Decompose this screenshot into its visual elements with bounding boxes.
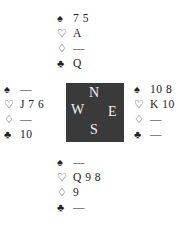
west-clubs-cards: 10: [20, 127, 33, 142]
east-hearts-cards: K 10: [150, 97, 175, 112]
spade-icon: ♠: [4, 82, 20, 97]
west-diamonds-row: ♢ —: [4, 112, 44, 127]
compass-north-label: N: [89, 85, 99, 101]
club-icon: ♣: [4, 127, 20, 142]
east-spades-row: ♠ 10 8: [134, 82, 175, 97]
south-hand: ♠ — ♡ Q 9 8 ♢ 9 ♣ —: [57, 155, 101, 215]
compass-table: N W E S: [66, 83, 124, 142]
west-diamonds-cards: —: [20, 112, 32, 127]
north-spades-row: ♠ 7 5: [57, 11, 89, 26]
south-diamonds-cards: 9: [73, 185, 79, 200]
north-hand: ♠ 7 5 ♡ A ♢ — ♣ Q: [57, 11, 89, 71]
club-icon: ♣: [57, 56, 73, 71]
diamond-icon: ♢: [134, 112, 150, 127]
north-hearts-cards: A: [73, 26, 82, 41]
east-diamonds-row: ♢ —: [134, 112, 175, 127]
west-clubs-row: ♣ 10: [4, 127, 44, 142]
north-diamonds-row: ♢ —: [57, 41, 89, 56]
west-spades-row: ♠ —: [4, 82, 44, 97]
compass-south-label: S: [90, 122, 98, 138]
north-clubs-cards: Q: [73, 56, 82, 71]
south-clubs-row: ♣ —: [57, 200, 101, 215]
spade-icon: ♠: [134, 82, 150, 97]
compass-west-label: W: [71, 102, 84, 118]
spade-icon: ♠: [57, 11, 73, 26]
club-icon: ♣: [134, 127, 150, 142]
compass-east-label: E: [108, 104, 117, 120]
east-hand: ♠ 10 8 ♡ K 10 ♢ — ♣ —: [134, 82, 175, 142]
north-diamonds-cards: —: [73, 41, 85, 56]
club-icon: ♣: [57, 200, 73, 215]
north-clubs-row: ♣ Q: [57, 56, 89, 71]
heart-icon: ♡: [4, 97, 20, 112]
spade-icon: ♠: [57, 155, 73, 170]
diamond-icon: ♢: [57, 41, 73, 56]
east-spades-cards: 10 8: [150, 82, 172, 97]
south-hearts-row: ♡ Q 9 8: [57, 170, 101, 185]
south-diamonds-row: ♢ 9: [57, 185, 101, 200]
heart-icon: ♡: [57, 26, 73, 41]
diamond-icon: ♢: [4, 112, 20, 127]
west-spades-cards: —: [20, 82, 32, 97]
west-hearts-cards: J 7 6: [20, 97, 44, 112]
diamond-icon: ♢: [57, 185, 73, 200]
north-hearts-row: ♡ A: [57, 26, 89, 41]
east-clubs-row: ♣ —: [134, 127, 175, 142]
west-hand: ♠ — ♡ J 7 6 ♢ — ♣ 10: [4, 82, 44, 142]
east-hearts-row: ♡ K 10: [134, 97, 175, 112]
east-diamonds-cards: —: [150, 112, 162, 127]
south-clubs-cards: —: [73, 200, 85, 215]
heart-icon: ♡: [57, 170, 73, 185]
west-hearts-row: ♡ J 7 6: [4, 97, 44, 112]
south-hearts-cards: Q 9 8: [73, 170, 101, 185]
south-spades-cards: —: [73, 155, 85, 170]
south-spades-row: ♠ —: [57, 155, 101, 170]
north-spades-cards: 7 5: [73, 11, 89, 26]
east-clubs-cards: —: [150, 127, 162, 142]
heart-icon: ♡: [134, 97, 150, 112]
